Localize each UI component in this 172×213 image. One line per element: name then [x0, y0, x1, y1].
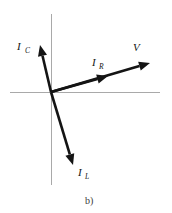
phasor-labels-group: I C I R V I L [16, 40, 141, 181]
label-ic-subscript: C [25, 46, 31, 55]
phasor-arrowhead-il [65, 153, 74, 165]
phasor-diagram-canvas: I C I R V I L b) [0, 0, 172, 213]
figure-caption: b) [85, 195, 93, 207]
phasor-shaft-v [51, 66, 139, 92]
label-v-symbol: V [133, 41, 141, 53]
label-ir-subscript: R [98, 62, 104, 71]
phasor-shaft-il [51, 92, 70, 154]
label-ic: I C [16, 40, 31, 55]
label-ic-symbol: I [16, 40, 22, 52]
label-v: V [133, 41, 141, 53]
phasor-arrowhead-ic [38, 45, 47, 57]
label-ir: I R [91, 56, 104, 71]
phasor-arrowhead-v [138, 62, 150, 71]
label-il-subscript: L [84, 172, 89, 181]
phasor-figure: I C I R V I L b) [0, 0, 172, 213]
axes-group [10, 14, 160, 185]
label-il-symbol: I [77, 166, 83, 178]
phasor-shaft-ic [43, 56, 51, 92]
label-ir-symbol: I [91, 56, 97, 68]
label-il: I L [77, 166, 89, 181]
